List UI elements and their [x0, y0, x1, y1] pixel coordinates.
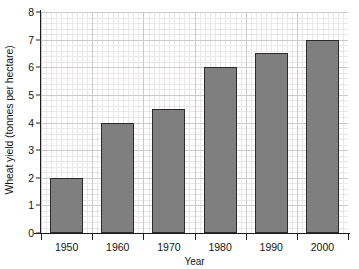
y-tick-label-3: 3	[16, 144, 34, 156]
y-tick-label-6: 6	[16, 61, 34, 73]
y-axis-title-text: Wheat yield (tonnes per hectare)	[3, 45, 15, 194]
bar-1990	[255, 53, 288, 233]
bar-1960	[101, 123, 134, 234]
x-tick-label-1950: 1950	[44, 241, 90, 253]
y-tick-label-5: 5	[16, 89, 34, 101]
x-tick-mark-5	[297, 234, 298, 240]
bar-2000	[306, 40, 339, 233]
x-tick-mark-1	[92, 234, 93, 240]
y-tick-label-1: 1	[16, 199, 34, 211]
y-tick-label-2: 2	[16, 172, 34, 184]
y-tick-label-0: 0	[16, 227, 34, 239]
x-tick-label-2000: 2000	[299, 241, 345, 253]
x-tick-label-1970: 1970	[146, 241, 192, 253]
bar-1980	[204, 67, 237, 233]
wheat-yield-bar-chart: Wheat yield (tonnes per hectare) 0123456…	[0, 0, 359, 269]
y-tick-label-4: 4	[16, 117, 34, 129]
x-tick-label-1960: 1960	[95, 241, 141, 253]
x-tick-mark-0	[41, 234, 42, 240]
x-tick-mark-2	[143, 234, 144, 240]
x-tick-mark-4	[246, 234, 247, 240]
y-axis-tick-labels: 012345678	[16, 0, 34, 269]
x-tick-label-1980: 1980	[197, 241, 243, 253]
x-axis-title: Year	[41, 256, 348, 267]
x-tick-mark-3	[195, 234, 196, 240]
x-tick-mark-6	[348, 234, 349, 240]
y-tick-label-8: 8	[16, 6, 34, 18]
x-tick-label-1990: 1990	[248, 241, 294, 253]
y-tick-label-7: 7	[16, 34, 34, 46]
bar-series	[41, 12, 348, 233]
bar-1970	[152, 109, 185, 233]
bar-1950	[50, 178, 83, 233]
x-axis-line	[34, 233, 350, 234]
